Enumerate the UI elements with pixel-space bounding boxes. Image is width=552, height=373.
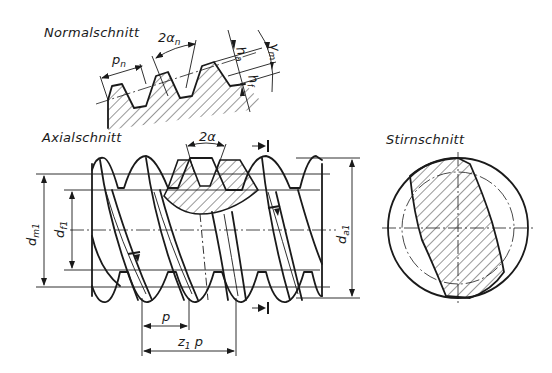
normal-section-title: Normalschnitt [44, 25, 140, 40]
section-marker-top [252, 140, 268, 152]
alpha-label: 2α [199, 129, 216, 144]
alpha-n-label: 2αn [158, 30, 181, 47]
axial-section-view: Axialschnitt [24, 129, 360, 356]
section-marker-bottom [252, 302, 268, 314]
gamma-m-arc [258, 30, 273, 92]
da1-label: da1 [334, 224, 351, 244]
normal-mid-line [228, 62, 276, 76]
normal-section-view: Normalschnitt pn 2αn ha hf γm [44, 25, 285, 130]
hf-label: hf [243, 73, 263, 90]
dm1-label: dm1 [24, 223, 41, 246]
alpha-n-ext-right [186, 40, 196, 88]
df1-label: df1 [52, 221, 69, 238]
axial-cut-hatch [164, 160, 258, 214]
transverse-section-view: Stirnschnitt [382, 132, 534, 306]
worm-geometry-figure: Normalschnitt pn 2αn ha hf γm A [0, 0, 552, 373]
pn-label: pn [111, 52, 126, 69]
axial-pitch-label: p [161, 309, 170, 324]
gamma-m-arrow-bottom [270, 62, 274, 70]
pn-ext-left [100, 76, 108, 100]
normal-section-hatch [108, 62, 260, 130]
transverse-section-title: Stirnschnitt [386, 132, 465, 147]
lead-label: z1 p [177, 334, 203, 351]
worm-top-crests [92, 156, 322, 190]
gamma-m-label: γm [265, 42, 285, 61]
axial-section-title: Axialschnitt [41, 130, 122, 145]
pn-ext-right [140, 64, 146, 84]
